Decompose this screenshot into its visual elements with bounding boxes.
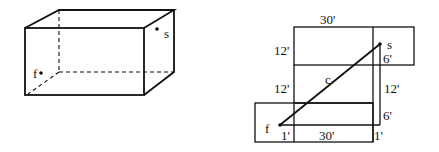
box-right-face: [144, 10, 174, 95]
point-s-label: s: [164, 26, 169, 41]
dim-top-length: 30': [320, 12, 335, 27]
net-top-panel: [294, 27, 414, 65]
box-top-face: [25, 10, 174, 28]
dim-bottom-right-offset: 1': [374, 128, 383, 143]
net-point-s-label: s: [387, 37, 392, 52]
point-s-dot: [155, 27, 159, 31]
point-f-label: f: [33, 66, 38, 81]
net-point-f-dot: [278, 123, 282, 127]
dim-right-offset-bottom: 6': [383, 108, 392, 123]
dim-left-height-middle: 12': [274, 81, 289, 96]
path-c-label: c: [325, 72, 331, 87]
dim-bottom-left-offset: 1': [281, 128, 290, 143]
dim-right-offset-top: 6': [383, 51, 392, 66]
box-net: 30' 12' 12' s 6' 12' 6' c f 1' 30' 1': [255, 12, 414, 143]
point-f-dot: [39, 71, 43, 75]
box-3d: s f: [25, 10, 174, 95]
net-point-f-label: f: [265, 121, 270, 136]
net-bottom-panel: [255, 103, 373, 142]
box-front-face: [25, 28, 144, 95]
dim-bottom-length: 30': [319, 128, 334, 143]
dim-right-height: 12': [384, 81, 399, 96]
net-point-s-dot: [378, 42, 382, 46]
dim-left-height-upper: 12': [274, 43, 289, 58]
diagram-canvas: s f 30' 12' 12' s 6' 12' 6' c f 1' 30' 1…: [0, 0, 439, 152]
